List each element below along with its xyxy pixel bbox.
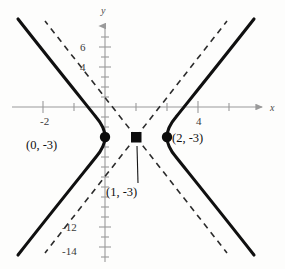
y-tick-label-minus-12: -12: [62, 222, 77, 233]
x-axis-label: x: [270, 103, 274, 113]
point-right-vertex: [162, 132, 172, 142]
asymptote-negative-upper: [45, 21, 136, 137]
hyperbola-figure: y x 6 4 -12 -14 -2 4 (0, -3) (2, -3) (1,…: [0, 0, 285, 269]
center-point-label: (1, -3): [106, 186, 137, 199]
y-tick-label-6: 6: [80, 42, 86, 53]
plot-canvas: [0, 0, 285, 269]
y-axis-label: y: [101, 6, 105, 16]
y-tick-label-minus-14: -14: [62, 246, 77, 257]
center-label-leader-line: [137, 146, 138, 183]
point-center: [131, 132, 142, 143]
asymptote-negative-lower: [136, 137, 227, 253]
y-tick-label-4: 4: [80, 62, 86, 73]
x-tick-label-minus-2: -2: [40, 116, 49, 127]
marked-points: [100, 132, 172, 143]
left-branch: [18, 19, 105, 255]
x-tick-label-4: 4: [196, 116, 202, 127]
left-vertex-label: (0, -3): [26, 139, 57, 152]
asymptote-positive-upper: [136, 21, 227, 137]
point-left-vertex: [100, 132, 110, 142]
right-vertex-label: (2, -3): [172, 132, 203, 145]
